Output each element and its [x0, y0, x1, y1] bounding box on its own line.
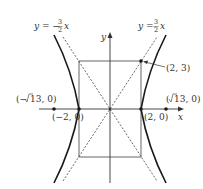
svg-text:13, 0): 13, 0)	[30, 94, 56, 104]
corner-leader-arrow-icon	[143, 61, 148, 65]
svg-text:(−: (−	[16, 94, 27, 104]
y-axis-arrow-icon	[108, 32, 113, 38]
corner-point	[139, 59, 143, 63]
svg-text:2: 2	[58, 26, 62, 34]
svg-text:3: 3	[58, 18, 62, 26]
svg-text:x: x	[64, 21, 69, 31]
origin-point	[109, 108, 111, 110]
x-axis-label: x	[178, 112, 183, 122]
vertex-left-label: (−2, 0)	[52, 112, 84, 122]
svg-text:y = −: y = −	[33, 21, 60, 31]
vertex-left-point	[77, 107, 81, 111]
vertex-right-point	[139, 107, 143, 111]
svg-text:x: x	[160, 21, 165, 31]
svg-text:(: (	[166, 94, 170, 104]
svg-text:2: 2	[154, 26, 158, 34]
asymptote-label-positive: y = 3 2 x	[137, 18, 165, 34]
svg-text:y =: y =	[137, 21, 154, 31]
y-axis-label: y	[100, 32, 107, 42]
corner-label: (2, 3)	[166, 63, 190, 73]
focus-left-point	[52, 107, 56, 111]
focus-left-label: (− 13, 0)	[16, 94, 56, 104]
x-axis-arrow-icon	[178, 107, 184, 112]
asymptote-label-negative: y = − 3 2 x	[33, 18, 69, 34]
focus-right-label: ( 13, 0)	[166, 94, 200, 104]
focus-right-point	[164, 107, 168, 111]
svg-text:13, 0): 13, 0)	[174, 94, 200, 104]
vertex-right-label: (2, 0)	[144, 112, 168, 122]
hyperbola-figure: y = − 3 2 x y = 3 2 x y x (2, 3) (−2, 0)…	[0, 0, 203, 189]
corner-label-leader	[145, 62, 165, 67]
svg-text:3: 3	[154, 18, 158, 26]
